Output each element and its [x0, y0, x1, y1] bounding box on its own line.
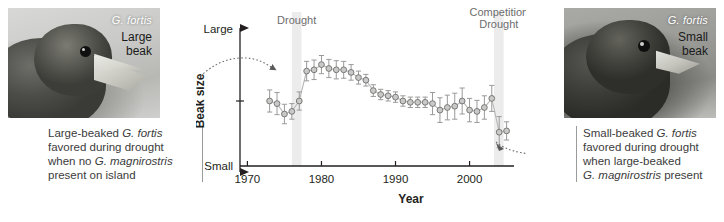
note-line: Small-beaked G. fortis — [583, 126, 724, 140]
data-point — [267, 90, 273, 112]
marker-circle — [407, 99, 413, 105]
marker-circle — [444, 105, 450, 111]
data-point — [400, 96, 406, 106]
marker-circle — [459, 98, 465, 104]
y-axis-title: Beak size — [196, 73, 207, 128]
marker-circle — [348, 70, 354, 76]
data-point — [363, 74, 369, 86]
drought-bands — [292, 12, 504, 166]
species-name: G. fortis — [657, 127, 697, 139]
photo-beak-size-label: Small beak — [678, 30, 708, 58]
marker-circle — [489, 96, 495, 102]
x-tick-label: 1970 — [235, 173, 261, 185]
data-point — [407, 97, 413, 107]
data-point — [274, 93, 280, 115]
data-point — [437, 98, 443, 123]
photo-beak-size-label: Large beak — [121, 30, 152, 58]
bird-eye — [638, 40, 650, 52]
x-tick-label: 1990 — [383, 173, 409, 185]
marker-circle — [415, 99, 421, 105]
bird-eye — [80, 46, 91, 57]
chart-axes: 1970198019902000LargeSmallBeak sizeYear — [196, 23, 514, 206]
marker-circle — [378, 92, 384, 98]
data-point — [415, 97, 421, 107]
data-point — [430, 93, 436, 115]
data-point — [370, 85, 376, 97]
note-line: when large-beaked — [583, 154, 724, 168]
data-points-group — [267, 56, 510, 148]
marker-circle — [311, 67, 317, 73]
drought-band-1 — [292, 12, 302, 166]
data-point — [504, 122, 510, 140]
note-line: present on island — [48, 168, 196, 182]
data-point — [341, 61, 347, 78]
marker-circle — [437, 107, 443, 113]
x-tick-label: 2000 — [457, 173, 483, 185]
marker-circle — [452, 103, 458, 109]
data-point — [356, 71, 362, 84]
note-line: G. magnirostris present — [583, 168, 724, 182]
data-point — [474, 100, 480, 122]
photo-species-label: G. fortis — [112, 14, 152, 26]
note-text: Small-beaked — [583, 127, 657, 139]
photo-species-label: G. fortis — [668, 14, 708, 26]
marker-circle — [289, 109, 295, 115]
drought-band-2-label-line1: Competition — [469, 6, 526, 18]
data-point — [348, 65, 354, 81]
data-point — [333, 61, 339, 79]
y-axis-max-label: Large — [204, 23, 233, 35]
marker-circle — [400, 98, 406, 104]
species-name: G. fortis — [122, 127, 162, 139]
marker-circle — [363, 77, 369, 83]
note-text: present — [661, 169, 703, 181]
marker-circle — [341, 67, 347, 73]
photo-beak-size-line2: beak — [121, 44, 152, 58]
data-point — [311, 60, 317, 80]
data-point — [393, 92, 399, 102]
marker-circle — [282, 111, 288, 117]
note-line: favored during drought — [48, 140, 196, 154]
data-point — [481, 96, 487, 119]
species-name: G. magnirostris — [583, 169, 661, 181]
photo-panel-large-beak: G. fortis Large beak — [8, 8, 160, 118]
marker-circle — [385, 93, 391, 99]
note-line: Large-beaked G. fortis — [48, 126, 196, 140]
data-point — [467, 98, 473, 121]
data-point — [385, 91, 391, 101]
marker-circle — [393, 94, 399, 100]
marker-circle — [319, 62, 325, 68]
photo-beak-size-line2: beak — [678, 44, 708, 58]
note-line: when no G. magnirostris — [48, 154, 196, 168]
data-point — [444, 95, 450, 120]
note-text: Large-beaked — [48, 127, 122, 139]
marker-circle — [474, 109, 480, 115]
photo-beak-size-line1: Small — [678, 30, 708, 44]
data-point — [378, 89, 384, 99]
drought-band-1-label: Drought — [277, 14, 316, 26]
data-point — [319, 56, 325, 74]
chart-svg: 1970198019902000LargeSmallBeak sizeYear … — [196, 6, 526, 218]
data-point — [452, 93, 458, 119]
marker-circle — [274, 101, 280, 107]
chart-annotations: DroughtCompetitionDrought — [196, 6, 526, 156]
note-line: favored during drought — [583, 140, 724, 154]
x-axis-title: Year — [398, 192, 424, 206]
marker-circle — [430, 101, 436, 107]
y-axis-min-label: Small — [204, 160, 233, 172]
marker-circle — [333, 67, 339, 73]
species-name: G. magnirostris — [95, 155, 173, 167]
beak-size-time-series-chart: 1970198019902000LargeSmallBeak sizeYear … — [196, 6, 526, 218]
arrow-from-left-photo — [196, 58, 276, 138]
marker-circle — [504, 128, 510, 134]
data-point — [459, 88, 465, 114]
marker-circle — [370, 88, 376, 94]
data-point — [326, 59, 332, 77]
marker-circle — [481, 105, 487, 111]
marker-circle — [296, 98, 302, 104]
marker-circle — [267, 98, 273, 104]
note-small-beaked: Small-beaked G. fortis favored during dr… — [576, 126, 724, 182]
marker-circle — [356, 75, 362, 81]
marker-circle — [326, 66, 332, 72]
data-point — [282, 104, 288, 124]
drought-band-2-label-line2: Drought — [479, 18, 518, 30]
